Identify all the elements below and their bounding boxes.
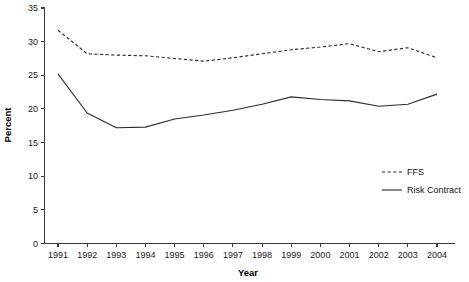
x-tick-label: 2003	[398, 250, 418, 260]
chart-legend: FFSRisk Contract	[382, 167, 462, 195]
y-tick-label: 30	[28, 37, 38, 47]
y-tick-label: 35	[28, 3, 38, 13]
x-axis: 1991199219931994199519961997199819992000…	[45, 244, 456, 260]
x-tick-label: 2002	[369, 250, 389, 260]
series-line-risk-contract	[58, 74, 437, 128]
chart-canvas: 05101520253035 1991199219931994199519961…	[0, 0, 469, 282]
x-tick-label: 1993	[106, 250, 126, 260]
x-tick-label: 1996	[194, 250, 214, 260]
y-tick-label: 25	[28, 70, 38, 80]
y-tick-label: 15	[28, 138, 38, 148]
x-axis-title: Year	[238, 267, 258, 278]
x-tick-label: 1994	[135, 250, 155, 260]
legend-label-risk-contract: Risk Contract	[407, 185, 462, 195]
y-axis-title: Percent	[2, 107, 13, 143]
y-tick-label: 20	[28, 104, 38, 114]
series-line-ffs	[58, 30, 437, 61]
x-tick-label: 2004	[427, 250, 447, 260]
line-chart: 05101520253035 1991199219931994199519961…	[0, 0, 469, 282]
x-tick-label: 1992	[77, 250, 97, 260]
x-tick-label: 1999	[281, 250, 301, 260]
x-tick-label: 1997	[223, 250, 243, 260]
y-tick-label: 10	[28, 171, 38, 181]
x-tick-label: 1998	[252, 250, 272, 260]
x-tick-label: 2001	[340, 250, 360, 260]
y-axis: 05101520253035	[28, 3, 45, 249]
legend-label-ffs: FFS	[407, 167, 424, 177]
x-tick-label: 2000	[310, 250, 330, 260]
y-tick-label: 5	[33, 205, 38, 215]
y-tick-label: 0	[33, 239, 38, 249]
x-tick-label: 1991	[48, 250, 68, 260]
data-series-group	[58, 30, 437, 128]
x-tick-label: 1995	[165, 250, 185, 260]
